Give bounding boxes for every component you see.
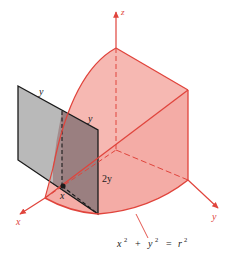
svg-text:x: x bbox=[116, 238, 122, 249]
square-edge-label-y: y bbox=[38, 86, 44, 97]
y-axis bbox=[188, 180, 218, 208]
svg-text:2: 2 bbox=[124, 236, 127, 243]
base-equation: x 2 + y 2 = r 2 bbox=[116, 236, 187, 249]
svg-text:2: 2 bbox=[184, 236, 187, 243]
svg-text:=: = bbox=[166, 238, 172, 249]
y-axis-label: y bbox=[211, 211, 217, 222]
point-x-label: x bbox=[59, 190, 65, 201]
equation-leader-line bbox=[136, 214, 148, 238]
square-inner-label-y: y bbox=[87, 113, 93, 124]
z-axis-label: z bbox=[120, 7, 125, 17]
svg-text:2: 2 bbox=[155, 236, 158, 243]
svg-text:+: + bbox=[135, 238, 141, 249]
x-axis-label: x bbox=[15, 216, 21, 227]
x-axis bbox=[20, 198, 45, 214]
height-label-2y: 2y bbox=[102, 173, 112, 184]
solid-cross-section-diagram: z x y y y 2y x x 2 + y 2 = r 2 bbox=[0, 0, 232, 275]
point-x-marker bbox=[60, 183, 65, 188]
svg-text:y: y bbox=[147, 238, 153, 249]
svg-text:r: r bbox=[178, 238, 182, 249]
